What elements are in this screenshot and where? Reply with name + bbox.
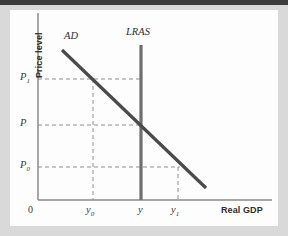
lras-curve-label: LRAS [126, 26, 150, 37]
y-tick-label-p1: P1 [20, 71, 30, 85]
tick-subscript: 0 [91, 210, 95, 218]
origin-label: 0 [28, 204, 33, 215]
x-tick-label-y0: y0 [86, 204, 94, 218]
y-axis-title: Price level [34, 32, 44, 78]
x-axis-title: Real GDP [221, 205, 263, 215]
y-tick-label-p: P [20, 117, 26, 128]
tick-subscript: 1 [176, 210, 180, 218]
figure-root: Price level Real GDP 0 P1 P P0 y0 y y1 A… [0, 0, 288, 236]
ad-curve-label: AD [64, 30, 78, 41]
tick-subscript: 1 [26, 77, 30, 85]
tick-letter: P [20, 117, 26, 128]
y-tick-label-p0: P0 [20, 159, 30, 173]
x-tick-label-y1: y1 [171, 204, 179, 218]
x-tick-label-y: y [138, 204, 143, 215]
tick-subscript: 0 [26, 165, 30, 173]
tick-letter: y [138, 204, 143, 215]
